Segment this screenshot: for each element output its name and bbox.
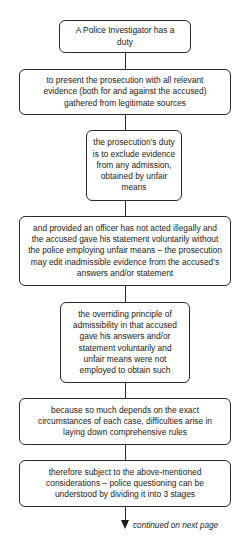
flow-node-present-evidence: to present the prosecution with all rele… <box>19 69 231 115</box>
node-text: because so much depends on the exact cir… <box>34 405 216 439</box>
flow-node-admissibility-principle: the overriding principle of admissibilit… <box>60 302 190 383</box>
node-text: the overriding principle of admissibilit… <box>73 309 177 376</box>
flow-node-three-stages: therefore subject to the above-mentioned… <box>19 460 231 507</box>
node-text: to present the prosecution with all rele… <box>36 75 214 109</box>
connector-3-4 <box>125 201 126 216</box>
flow-node-difficulties: because so much depends on the exact cir… <box>19 398 231 445</box>
node-text: therefore subject to the above-mentioned… <box>36 467 214 501</box>
connector-1-2 <box>125 53 126 69</box>
flow-node-edit-inadmissible: and provided an officer has not acted il… <box>19 216 231 286</box>
connector-5-6 <box>125 383 126 398</box>
connector-2-3 <box>125 115 126 130</box>
node-text: the prosecution’s duty is to exclude evi… <box>92 137 176 193</box>
continued-on-next-page-label: continued on next page <box>133 521 218 530</box>
flow-node-police-duty: A Police Investigator has a duty <box>59 20 191 53</box>
continuation-arrow-icon <box>121 520 129 529</box>
flow-node-prosecution-duty: the prosecution’s duty is to exclude evi… <box>86 130 182 201</box>
connector-6-7 <box>125 445 126 460</box>
node-text: and provided an officer has not acted il… <box>28 223 222 279</box>
connector-4-5 <box>125 286 126 302</box>
continuation-arrow-shaft <box>125 507 126 521</box>
node-text: A Police Investigator has a duty <box>74 25 176 47</box>
